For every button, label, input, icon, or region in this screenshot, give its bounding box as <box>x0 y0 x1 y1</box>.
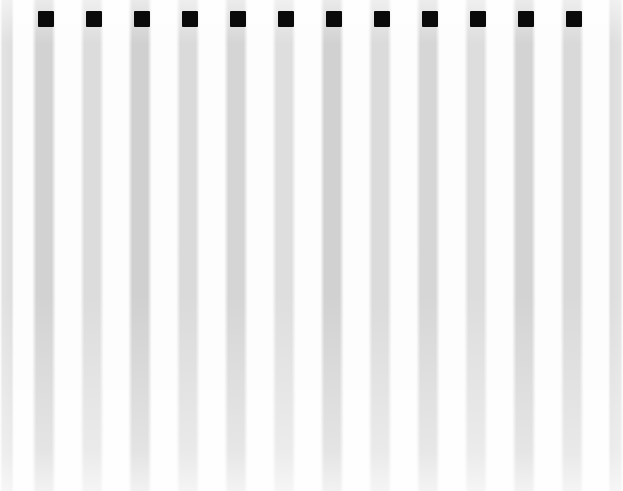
stripe-12 <box>512 0 536 491</box>
stripe-6 <box>224 0 248 491</box>
stripe-1 <box>0 0 14 491</box>
stripe-7 <box>272 0 296 491</box>
marker-6 <box>278 11 294 27</box>
stripe-13 <box>560 0 584 491</box>
marker-7 <box>326 11 342 27</box>
marker-12 <box>566 11 582 27</box>
marker-8 <box>374 11 390 27</box>
marker-1 <box>38 11 54 27</box>
marker-5 <box>230 11 246 27</box>
stripe-3 <box>80 0 104 491</box>
vertical-gradient-overlay <box>0 0 623 491</box>
stripe-2 <box>32 0 56 491</box>
marker-11 <box>518 11 534 27</box>
stripe-10 <box>416 0 440 491</box>
striped-pattern-scene <box>0 0 623 491</box>
marker-2 <box>86 11 102 27</box>
marker-4 <box>182 11 198 27</box>
stripe-9 <box>368 0 392 491</box>
stripe-5 <box>176 0 200 491</box>
stripe-11 <box>464 0 488 491</box>
horizontal-gradient-overlay <box>0 0 623 491</box>
marker-10 <box>470 11 486 27</box>
stripe-4 <box>128 0 152 491</box>
stripe-8 <box>320 0 344 491</box>
marker-9 <box>422 11 438 27</box>
marker-3 <box>134 11 150 27</box>
stripe-14 <box>608 0 623 491</box>
